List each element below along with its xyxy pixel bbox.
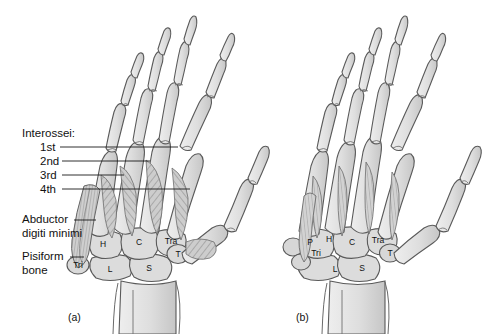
abductor-digiti-minimi-label-line2: digiti minimi: [22, 227, 82, 241]
carpal-label-scaphoid-b: S: [359, 263, 365, 273]
carpal-label-pisiform-b: P: [307, 237, 313, 247]
carpal-label-triquetral-a: Tri: [73, 260, 83, 270]
carpal-label-capitate-b: C: [349, 237, 355, 247]
forearm-bones-b: [322, 281, 389, 334]
phalanges-a: [106, 16, 235, 152]
panel-caption-a: (a): [68, 311, 81, 323]
carpal-label-hamate-a: H: [100, 239, 106, 249]
carpal-label-lunate-b: L: [333, 264, 338, 274]
carpal-label-triquetral-b: Tri: [311, 248, 321, 258]
figure-canvas: H C Tra T Tri L S: [0, 0, 491, 334]
interossei-4th-label: 4th: [40, 183, 56, 197]
interossei-3rd-label: 3rd: [40, 169, 57, 183]
interossei-1st-label: 1st: [40, 141, 55, 155]
carpals-proximal-b: [298, 254, 380, 282]
carpal-label-hamate-b: H: [326, 234, 332, 244]
interossei-heading: Interossei:: [22, 127, 75, 141]
carpal-label-trapezoid-a: Tra: [165, 236, 178, 246]
forearm-bones-a: [113, 281, 180, 334]
thumb-phalanges-b: [436, 146, 481, 232]
thumb-phalanges-a: [224, 146, 269, 232]
panel-caption-b: (b): [296, 311, 309, 323]
carpal-label-scaphoid-a: S: [146, 263, 152, 273]
carpal-label-lunate-a: L: [108, 264, 113, 274]
carpal-label-trapezium-b: T: [387, 248, 392, 258]
panel-b-illustration: P H C Tra T Tri L S: [283, 16, 481, 334]
abductor-digiti-minimi-label-line1: Abductor: [22, 213, 68, 227]
pisiform-bone-label-line2: bone: [22, 264, 48, 278]
carpal-label-trapezium-a: T: [175, 249, 180, 259]
panel-a-illustration: H C Tra T Tri L S: [60, 16, 269, 334]
phalanges-b: [317, 16, 446, 152]
carpal-label-trapezoid-b: Tra: [372, 235, 385, 245]
interossei-2nd-label: 2nd: [40, 155, 59, 169]
carpal-label-capitate-a: C: [136, 237, 142, 247]
pisiform-bone-label-line1: Pisiform: [22, 250, 64, 264]
